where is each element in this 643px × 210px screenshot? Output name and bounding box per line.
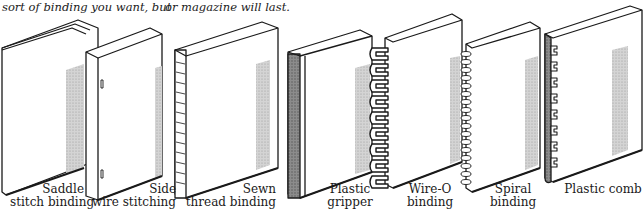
label-wire-o: Wire-O binding xyxy=(402,183,458,209)
saddle-stitch-book-icon xyxy=(2,20,98,195)
label-plastic-gripper: Plastic gripper xyxy=(325,183,375,209)
binding-illustration xyxy=(0,0,643,210)
label-side-wire: Side wire stitching xyxy=(80,183,176,209)
wire-o-book-icon xyxy=(370,14,462,188)
side-wire-book-icon xyxy=(86,28,162,200)
plastic-gripper-book-icon xyxy=(288,30,372,198)
label-plastic-comb: Plastic comb xyxy=(563,183,643,196)
label-spiral: Spiral binding xyxy=(487,183,539,209)
plastic-comb-book-icon xyxy=(545,6,642,183)
label-sewn-thread: Sewn thread binding xyxy=(180,183,276,209)
sewn-thread-book-icon xyxy=(175,22,278,198)
spiral-book-icon xyxy=(461,22,540,192)
label-saddle-stitch: Saddle stitch binding xyxy=(10,183,84,209)
